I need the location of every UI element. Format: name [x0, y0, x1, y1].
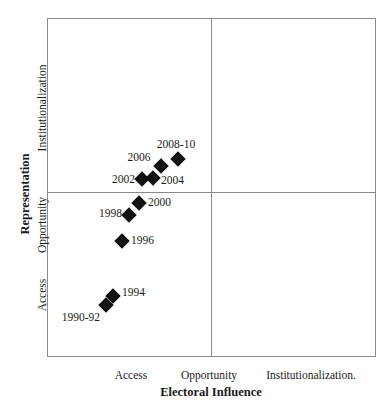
y-axis-tick-access: Access — [36, 279, 48, 312]
data-point-label-1990-92: 1990-92 — [62, 312, 100, 324]
data-point-label-2008-10: 2008-10 — [157, 139, 195, 151]
y-axis-tick-opportunity: Opportunity — [36, 197, 48, 253]
quadrant-divider-horizontal — [47, 192, 376, 193]
data-point-label-2002: 2002 — [112, 174, 135, 186]
y-axis-title: Representation — [18, 153, 33, 234]
data-point-label-1996: 1996 — [131, 235, 154, 247]
quadrant-divider-vertical — [211, 18, 212, 357]
data-point-label-1998: 1998 — [99, 208, 122, 220]
data-point-label-2000: 2000 — [148, 197, 171, 209]
y-axis-tick-institutionalization: Institutionalization — [36, 65, 48, 152]
x-axis-tick-opportunity: Opportunity — [181, 369, 237, 381]
x-axis-tick-institutionalization: Institutionalization. — [266, 369, 356, 381]
x-axis-tick-access: Access — [115, 369, 148, 381]
scatter-chart: 1990-92 1994 1996 1998 2000 2002 2004 20… — [0, 0, 389, 406]
data-point-label-2004: 2004 — [161, 175, 184, 187]
data-point-label-2006: 2006 — [128, 152, 151, 164]
x-axis-title: Electoral Influence — [160, 385, 262, 400]
data-point-label-1994: 1994 — [122, 287, 145, 299]
